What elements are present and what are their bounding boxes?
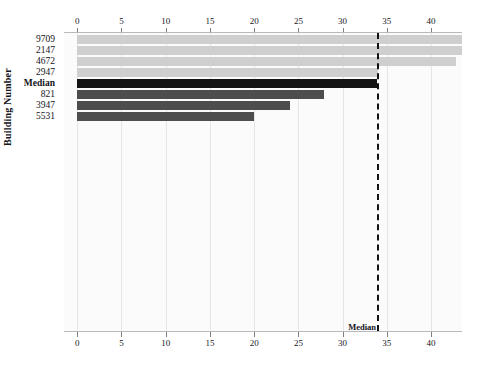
- x-axis-tick-label: 35: [382, 16, 391, 26]
- x-axis-tick-label: 25: [294, 16, 303, 26]
- x-axis-tick-label: 15: [205, 338, 214, 348]
- category-label-2147: 2147: [36, 45, 55, 55]
- bar-row: [64, 101, 462, 110]
- plot-area: [64, 33, 462, 331]
- x-axis-tick-label: 40: [427, 338, 436, 348]
- x-axis-tick-mark: [166, 332, 167, 337]
- x-axis-tick-label: 5: [119, 16, 124, 26]
- x-axis-tick-label: 0: [75, 338, 80, 348]
- x-axis-tick-mark: [121, 332, 122, 337]
- median-reference-line: [377, 33, 379, 331]
- bar-2947[interactable]: [77, 68, 378, 77]
- bar-9709[interactable]: [77, 35, 462, 44]
- bar-median[interactable]: [77, 79, 377, 88]
- x-axis-tick-mark: [298, 332, 299, 337]
- x-axis-tick-label: 15: [205, 16, 214, 26]
- category-label-9709: 9709: [36, 34, 55, 44]
- x-axis-tick-label: 30: [338, 338, 347, 348]
- x-axis-tick-label: 20: [250, 338, 259, 348]
- category-label-4672: 4672: [36, 56, 55, 66]
- x-axis-tick-label: 10: [161, 16, 170, 26]
- x-axis-tick-label: 0: [75, 16, 80, 26]
- bar-row: [64, 90, 462, 99]
- bar-row: [64, 112, 462, 121]
- cropped-text-fragment-b: [200, 2, 202, 9]
- bar-row: [64, 46, 462, 55]
- x-axis-tick-mark: [254, 332, 255, 337]
- x-axis-tick-label: 40: [427, 16, 436, 26]
- bar-row: [64, 57, 462, 66]
- cropped-top-strip: [0, 0, 479, 9]
- bar-row: [64, 35, 462, 44]
- category-label-821: 821: [41, 89, 55, 99]
- cropped-text-fragment-a: [100, 2, 102, 9]
- x-axis-tick-label: 30: [338, 16, 347, 26]
- x-axis-bottom: 0510152025303540: [64, 332, 462, 358]
- x-axis-tick-label: 35: [382, 338, 391, 348]
- x-axis-tick-mark: [77, 332, 78, 337]
- bar-row: [64, 68, 462, 77]
- x-axis-tick-label: 20: [250, 16, 259, 26]
- y-axis-category-labels: 9709214746722947Median82139475531: [0, 33, 60, 331]
- category-label-3947: 3947: [36, 100, 55, 110]
- x-axis-tick-mark: [343, 332, 344, 337]
- bar-row: [64, 79, 462, 88]
- x-axis-tick-label: 5: [119, 338, 124, 348]
- category-label-2947: 2947: [36, 67, 55, 77]
- category-label-median: Median: [24, 78, 55, 88]
- bars: [64, 33, 462, 331]
- bar-3947[interactable]: [77, 101, 289, 110]
- category-label-5531: 5531: [36, 111, 55, 121]
- x-axis-tick-label: 10: [161, 338, 170, 348]
- bar-chart-figure: Building Number 0510152025303540 9709214…: [0, 0, 479, 380]
- x-axis-tick-mark: [387, 332, 388, 337]
- bar-821[interactable]: [77, 90, 324, 99]
- x-axis-tick-label: 25: [294, 338, 303, 348]
- bar-5531[interactable]: [77, 112, 254, 121]
- x-axis-top: 0510152025303540: [64, 16, 462, 30]
- x-axis-tick-mark: [210, 332, 211, 337]
- cropped-text-fragment-c: [330, 2, 332, 9]
- x-axis-tick-mark: [431, 332, 432, 337]
- bar-4672[interactable]: [77, 57, 456, 66]
- bar-2147[interactable]: [77, 46, 462, 55]
